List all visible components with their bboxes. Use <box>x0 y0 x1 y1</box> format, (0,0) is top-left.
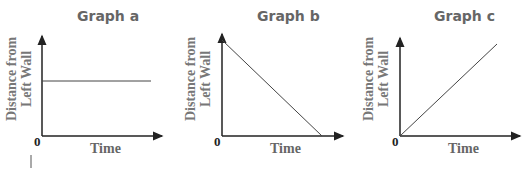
graph-b-line <box>222 40 322 136</box>
graph-b-title: Graph b <box>257 8 320 24</box>
graph-b-origin: 0 <box>214 134 221 150</box>
graph-b-y-label: Distance from Left Wall <box>183 29 213 129</box>
graph-a-origin: 0 <box>34 134 41 150</box>
graph-a-title: Graph a <box>77 8 139 24</box>
graph-b-x-label: Time <box>270 141 301 157</box>
graph-a-x-label: Time <box>90 141 121 157</box>
graph-c-line <box>400 44 497 136</box>
graph-c-plot <box>400 38 520 136</box>
graph-c-x-label: Time <box>448 141 479 157</box>
graph-a-y-label: Distance from Left Wall <box>4 29 34 129</box>
graph-b-plot <box>222 34 343 136</box>
graph-c-origin: 0 <box>392 134 399 150</box>
graph-c-y-label: Distance from Left Wall <box>361 29 391 129</box>
graph-c-title: Graph c <box>434 8 495 24</box>
